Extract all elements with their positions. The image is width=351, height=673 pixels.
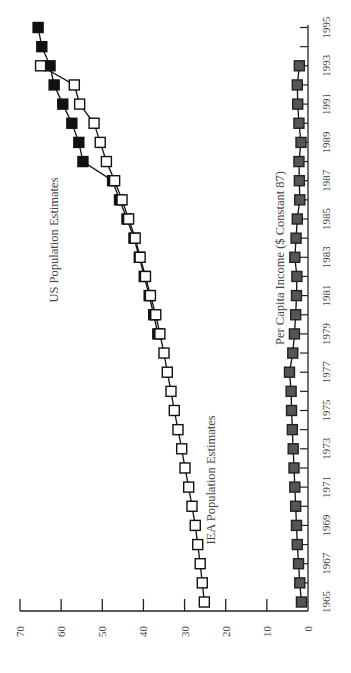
data-point-marker	[284, 367, 294, 377]
value-tick-label: 50	[96, 626, 108, 638]
data-point-marker	[291, 310, 301, 320]
value-tick-label: 40	[137, 626, 149, 638]
data-point-marker	[288, 348, 298, 358]
data-point-marker	[291, 233, 301, 243]
data-point-marker	[292, 214, 302, 224]
data-point-marker	[292, 540, 302, 550]
data-point-marker	[78, 157, 88, 167]
value-tick-label: 0	[302, 626, 314, 632]
year-tick-label: 1975	[320, 399, 332, 422]
year-tick-label: 1971	[320, 476, 332, 498]
data-point-marker	[295, 195, 305, 205]
year-tick-label: 1977	[320, 361, 332, 384]
data-point-marker	[89, 118, 99, 128]
data-point-marker	[187, 501, 197, 511]
data-point-marker	[294, 176, 304, 186]
year-tick-label: 1991	[320, 93, 332, 115]
year-tick-label: 1983	[320, 246, 332, 269]
year-tick-label: 1995	[320, 16, 332, 39]
data-point-marker	[159, 348, 169, 358]
value-tick-label: 60	[55, 626, 67, 638]
year-tick-label: 1969	[320, 514, 332, 537]
value-tick-label: 10	[261, 626, 273, 638]
iea-population-series	[36, 61, 210, 607]
data-point-marker	[290, 482, 300, 492]
data-point-marker	[166, 386, 176, 396]
data-point-marker	[124, 214, 134, 224]
data-point-marker	[184, 482, 194, 492]
data-point-marker	[67, 118, 77, 128]
data-point-marker	[151, 310, 161, 320]
data-point-marker	[197, 578, 207, 588]
data-point-marker	[180, 463, 190, 473]
year-tick-label: 1967	[320, 552, 332, 575]
year-tick-label: 1973	[320, 437, 332, 460]
data-point-marker	[287, 425, 297, 435]
data-point-marker	[95, 137, 105, 147]
annotation-iea-population: IEA Population Estimates	[204, 415, 218, 544]
data-point-marker	[75, 99, 85, 109]
data-point-marker	[294, 118, 304, 128]
data-point-marker	[294, 559, 304, 569]
data-point-marker	[145, 291, 155, 301]
data-point-marker	[69, 80, 79, 90]
data-point-marker	[58, 99, 68, 109]
data-point-marker	[117, 195, 127, 205]
data-point-marker	[294, 157, 304, 167]
data-point-marker	[135, 252, 145, 262]
data-point-marker	[193, 540, 203, 550]
data-point-marker	[290, 252, 300, 262]
annotation-per-capita-income: Per Capita Income ($ Constant 87)	[273, 171, 287, 345]
data-point-marker	[292, 80, 302, 90]
data-point-marker	[289, 329, 299, 339]
data-point-marker	[140, 271, 150, 281]
data-point-marker	[74, 137, 84, 147]
year-tick-label: 1985	[320, 208, 332, 231]
value-tick-label: 70	[14, 626, 26, 638]
data-point-marker	[162, 367, 172, 377]
data-point-marker	[190, 520, 200, 530]
data-point-marker	[169, 406, 179, 416]
data-point-marker	[177, 444, 187, 454]
rotated-line-chart: 0102030405060701965196719691971197319751…	[0, 0, 351, 673]
data-point-marker	[36, 61, 46, 71]
year-tick-label: 1981	[320, 285, 332, 307]
data-point-marker	[291, 501, 301, 511]
data-point-marker	[37, 42, 47, 52]
data-point-marker	[130, 233, 140, 243]
value-tick-label: 20	[220, 626, 232, 638]
data-point-marker	[49, 80, 59, 90]
data-point-marker	[287, 406, 297, 416]
year-tick-label: 1987	[320, 169, 332, 192]
data-point-marker	[195, 559, 205, 569]
data-point-marker	[293, 99, 303, 109]
data-point-marker	[199, 597, 209, 607]
data-point-marker	[291, 291, 301, 301]
data-point-marker	[292, 271, 302, 281]
data-point-marker	[155, 329, 165, 339]
year-tick-label: 1979	[320, 322, 332, 345]
data-point-marker	[294, 61, 304, 71]
year-tick-label: 1989	[320, 131, 332, 154]
data-point-marker	[33, 23, 43, 33]
data-point-marker	[110, 176, 120, 186]
data-point-marker	[286, 386, 296, 396]
data-point-marker	[101, 157, 111, 167]
data-point-marker	[296, 597, 306, 607]
annotation-us-population: US Population Estimates	[47, 177, 61, 302]
data-point-marker	[173, 425, 183, 435]
year-tick-label: 1993	[320, 54, 332, 77]
data-point-marker	[291, 520, 301, 530]
year-tick-label: 1965	[320, 591, 332, 614]
data-point-marker	[289, 463, 299, 473]
data-point-marker	[295, 578, 305, 588]
value-tick-label: 30	[179, 626, 191, 638]
data-point-marker	[296, 137, 306, 147]
plot-area	[33, 23, 306, 608]
data-point-marker	[288, 444, 298, 454]
